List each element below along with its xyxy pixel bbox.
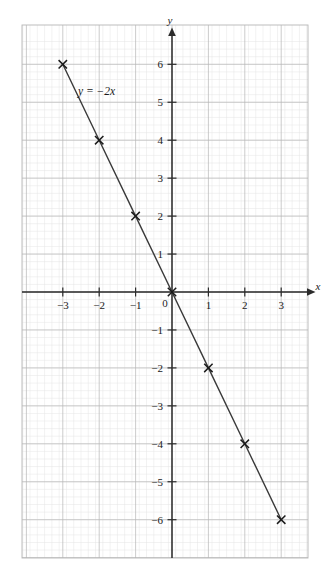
- y-tick-label: −6: [151, 514, 163, 526]
- x-tick-label: 2: [242, 299, 248, 311]
- y-tick-label: −5: [151, 476, 163, 488]
- y-tick-label: −1: [151, 324, 163, 336]
- coordinate-plane-svg: −3−2−1123 654321−1−2−3−4−5−6 0 x y y = −…: [0, 0, 330, 588]
- y-tick-label: 3: [158, 172, 164, 184]
- y-tick-label: −4: [151, 438, 163, 450]
- y-tick-label: 2: [158, 210, 164, 222]
- x-tick-label: −1: [130, 299, 142, 311]
- y-axis-name: y: [167, 14, 173, 26]
- x-tick-label: 1: [206, 299, 212, 311]
- y-tick-label: −3: [151, 400, 163, 412]
- graph-figure: −3−2−1123 654321−1−2−3−4−5−6 0 x y y = −…: [0, 0, 330, 588]
- canvas-background: [0, 0, 330, 588]
- y-tick-label: 6: [158, 58, 164, 70]
- y-tick-label: −2: [151, 362, 163, 374]
- origin-label: 0: [162, 297, 168, 309]
- x-tick-label: 3: [278, 299, 284, 311]
- x-axis-name: x: [315, 280, 321, 292]
- y-tick-label: 5: [158, 96, 164, 108]
- y-tick-label: 4: [158, 134, 164, 146]
- equation-annotation: y = −2x: [77, 85, 116, 98]
- y-tick-label: 1: [158, 248, 164, 260]
- x-tick-label: −2: [93, 299, 105, 311]
- x-tick-label: −3: [57, 299, 69, 311]
